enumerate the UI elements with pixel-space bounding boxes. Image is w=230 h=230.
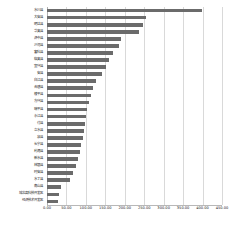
category-label: 永江县 xyxy=(34,115,43,118)
x-axis-tick-labels: 0.0050.00100.00150.00200.00250.00300.003… xyxy=(47,207,222,219)
bar-row xyxy=(47,65,222,69)
category-label: 水川县 xyxy=(34,9,43,12)
bar xyxy=(47,86,93,90)
x-tick-label: 100.00 xyxy=(80,207,93,211)
category-label: 泉县 xyxy=(37,136,43,139)
bar-row xyxy=(47,185,222,189)
bar-row xyxy=(47,143,222,147)
bar xyxy=(47,79,96,83)
bar-row xyxy=(47,51,222,55)
category-axis-labels: 水川县大安县明达县华奥县济中县沙河县富科县临奥县宜兴县安县白江县合碧县棱平县方兴… xyxy=(0,7,45,205)
category-label: 白江县 xyxy=(34,79,43,82)
category-label: 安县 xyxy=(37,72,43,75)
category-label: 林银县 xyxy=(34,164,43,167)
category-label: 经济技术开发区 xyxy=(22,199,43,202)
bar-row xyxy=(47,178,222,182)
category-label: 棱平县 xyxy=(34,93,43,96)
x-tick-label: 300.00 xyxy=(157,207,170,211)
category-label: 瑞平县 xyxy=(34,108,43,111)
bar-row xyxy=(47,94,222,98)
x-tick-label: 0.00 xyxy=(43,207,51,211)
bar xyxy=(47,23,143,27)
category-label: 水丁县 xyxy=(34,178,43,181)
bar xyxy=(47,157,78,161)
x-tick-label: 450.00 xyxy=(216,207,229,211)
bar-row xyxy=(47,171,222,175)
bar-row xyxy=(47,72,222,76)
bar-row xyxy=(47,108,222,112)
category-label: 合碧县 xyxy=(34,86,43,89)
bar-row xyxy=(47,115,222,119)
x-tick-label: 350.00 xyxy=(177,207,190,211)
x-tick-label: 400.00 xyxy=(196,207,209,211)
bar xyxy=(47,122,85,126)
bar xyxy=(47,193,59,197)
category-label: 大安县 xyxy=(34,16,43,19)
category-label: 明达县 xyxy=(34,23,43,26)
bar xyxy=(47,150,80,154)
category-label: 长宁县 xyxy=(34,143,43,146)
bar-row xyxy=(47,23,222,27)
bar xyxy=(47,94,91,98)
bar xyxy=(47,129,84,133)
category-label: 付县 xyxy=(37,122,43,125)
x-tick-label: 200.00 xyxy=(118,207,131,211)
category-label: 时安县 xyxy=(34,171,43,174)
bar-row xyxy=(47,164,222,168)
category-label: 沙河县 xyxy=(34,44,43,47)
chart-screenshot: 水川县大安县明达县华奥县济中县沙河县富科县临奥县宜兴县安县白江县合碧县棱平县方兴… xyxy=(0,0,230,230)
bar-row xyxy=(47,101,222,105)
gridline xyxy=(222,7,223,205)
bar-row xyxy=(47,58,222,62)
bar-row xyxy=(47,37,222,41)
category-label: 新水县 xyxy=(34,157,43,160)
bar-row xyxy=(47,136,222,140)
bar xyxy=(47,136,83,140)
bar xyxy=(47,58,109,62)
bar-row xyxy=(47,44,222,48)
bar-row xyxy=(47,129,222,133)
bar xyxy=(47,171,73,175)
bar xyxy=(47,72,102,76)
bar xyxy=(47,108,87,112)
bar-series xyxy=(47,7,222,205)
bar-row xyxy=(47,122,222,126)
category-label: 华奥县 xyxy=(34,30,43,33)
bar xyxy=(47,101,89,105)
bar-row xyxy=(47,79,222,83)
bar xyxy=(47,37,121,41)
bar xyxy=(47,51,113,55)
category-label: 利港县 xyxy=(34,150,43,153)
bar-row xyxy=(47,200,222,204)
bar-row xyxy=(47,150,222,154)
bar xyxy=(47,164,76,168)
bar xyxy=(47,9,202,13)
category-label: 南山县 xyxy=(34,185,43,188)
category-label: 立水县 xyxy=(34,129,43,132)
bar xyxy=(47,16,146,20)
category-label: 临奥县 xyxy=(34,58,43,61)
bar xyxy=(47,115,86,119)
bar-row xyxy=(47,193,222,197)
x-tick-label: 250.00 xyxy=(138,207,151,211)
category-label: 方兴县 xyxy=(34,100,43,103)
bar-row xyxy=(47,16,222,20)
category-label: 济中县 xyxy=(34,37,43,40)
bar-row xyxy=(47,9,222,13)
bar xyxy=(47,143,81,147)
bar xyxy=(47,44,119,48)
bar xyxy=(47,200,58,204)
category-label: 城北高科技开发区 xyxy=(19,192,43,195)
bar-row xyxy=(47,157,222,161)
bar-row xyxy=(47,30,222,34)
x-tick-label: 150.00 xyxy=(99,207,112,211)
bar xyxy=(47,30,139,34)
category-label: 富科县 xyxy=(34,51,43,54)
bar-row xyxy=(47,86,222,90)
x-tick-label: 50.00 xyxy=(61,207,71,211)
bar xyxy=(47,178,70,182)
category-label: 宜兴县 xyxy=(34,65,43,68)
bar xyxy=(47,185,61,189)
plot-area xyxy=(47,7,222,205)
bar xyxy=(47,65,106,69)
